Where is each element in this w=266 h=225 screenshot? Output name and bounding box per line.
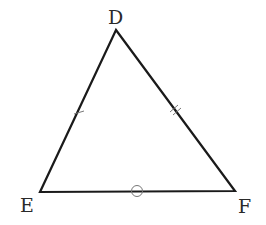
- triangle-diagram: D E F: [0, 0, 266, 225]
- triangle-def: [40, 30, 235, 192]
- vertex-label-f: F: [238, 195, 251, 217]
- vertex-label-d: D: [108, 6, 123, 28]
- vertex-label-e: E: [20, 194, 34, 216]
